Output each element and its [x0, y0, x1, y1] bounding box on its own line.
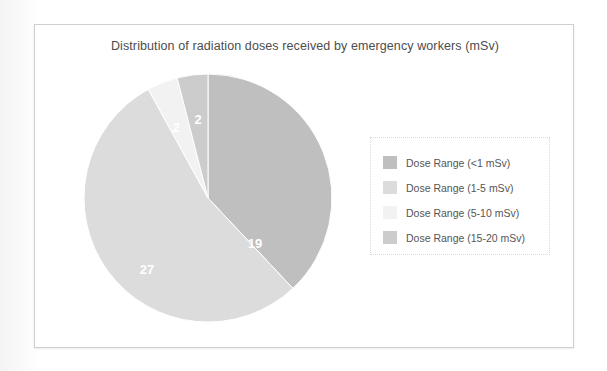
- legend-item-label: Dose Range (15-20 mSv): [406, 232, 525, 244]
- pie-chart: 192722: [83, 73, 333, 323]
- legend-item[interactable]: Dose Range (5-10 mSv): [383, 201, 525, 224]
- legend-item[interactable]: Dose Range (15-20 mSv): [383, 226, 525, 249]
- legend-item-label: Dose Range (<1 mSv): [406, 157, 510, 169]
- legend-swatch: [383, 206, 397, 219]
- legend-item-label: Dose Range (1-5 mSv): [406, 182, 513, 194]
- screenshot-root: Distribution of radiation doses received…: [0, 0, 607, 371]
- pie-slice-label: 2: [172, 120, 179, 135]
- chart-legend: Dose Range (<1 mSv)Dose Range (1-5 mSv)D…: [370, 137, 550, 255]
- legend-swatch: [383, 231, 397, 244]
- legend-swatch: [383, 156, 397, 169]
- pie-chart-svg: 192722: [83, 73, 333, 323]
- legend-item[interactable]: Dose Range (1-5 mSv): [383, 176, 525, 199]
- pie-slice-label: 27: [140, 262, 154, 277]
- legend-list: Dose Range (<1 mSv)Dose Range (1-5 mSv)D…: [383, 151, 525, 251]
- pie-slice-label: 19: [248, 236, 262, 251]
- legend-item-label: Dose Range (5-10 mSv): [406, 207, 519, 219]
- pie-slice-label: 2: [194, 112, 201, 127]
- legend-item[interactable]: Dose Range (<1 mSv): [383, 151, 525, 174]
- chart-title: Distribution of radiation doses received…: [35, 39, 575, 53]
- pie-slices: [84, 74, 332, 322]
- legend-swatch: [383, 181, 397, 194]
- chart-frame: Distribution of radiation doses received…: [34, 24, 574, 348]
